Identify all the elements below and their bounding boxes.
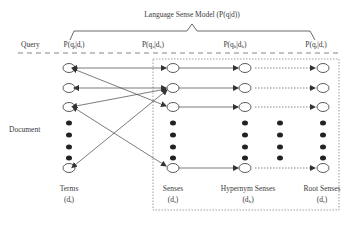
prob-terms: P(qt|dt) [64,41,85,49]
prob-root: P(qr|dr) [305,41,327,49]
column-label-terms: Terms(dt) [60,185,79,204]
document-label: Document [9,126,40,134]
prob-hypernym: P(qh|dh) [223,41,246,49]
column-label-hypernym: Hypernym Senses(dh) [221,185,275,204]
sense-hypernym-arrows [179,68,238,168]
column-label-root: Root Senses(dr) [304,185,341,204]
term-ellipsis-dots [66,121,72,161]
model-title: Language Sense Model (P(q|d)) [144,11,239,19]
column-label-senses: Senses(ds) [163,185,183,204]
brace [70,24,315,40]
sense-nodes [167,64,329,173]
query-label: Query [21,41,40,49]
hypernym-root-arrows [255,68,315,168]
prob-senses: P(qs|ds) [142,41,164,49]
sense-ellipsis-dots [170,121,326,161]
